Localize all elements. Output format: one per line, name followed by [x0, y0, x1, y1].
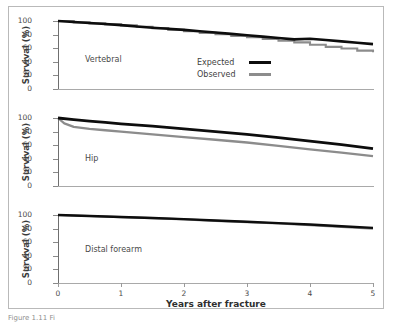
y-axis-tick-label: 0: [27, 85, 32, 93]
figure-caption: Figure 1.11 Fi: [8, 314, 384, 324]
y-axis-tick-label: 60: [22, 44, 32, 52]
expected-curve-vertebral: [58, 21, 373, 44]
y-axis-tick-label: 40: [22, 155, 32, 163]
panel-label-distal-forearm: Distal forearm: [85, 245, 142, 254]
legend-label-observed: Observed: [197, 70, 249, 79]
x-axis-tick-label: 3: [240, 289, 254, 298]
x-axis-tick: [373, 283, 374, 287]
x-axis-tick: [247, 283, 248, 287]
legend-entry-observed: Observed: [197, 69, 301, 80]
y-axis-tick-label: 40: [22, 252, 32, 260]
figure-frame: Survival (%) 020406080100 Vertebral Expe…: [8, 6, 384, 309]
x-axis-tick-label: 5: [366, 289, 380, 298]
thick-black-line-swatch-icon: [249, 61, 271, 64]
y-axis-tick: [53, 89, 58, 90]
x-axis-title: Years after fracture: [58, 299, 374, 309]
y-axis-tick-label: 40: [22, 58, 32, 66]
y-axis-tick-label: 80: [22, 128, 32, 136]
panel-label-hip: Hip: [85, 154, 98, 163]
x-axis-tick: [184, 283, 185, 287]
y-axis-tick-label: 20: [22, 168, 32, 176]
panel-distal-forearm: Survival (%) 020406080100 Distal forearm…: [9, 201, 385, 310]
x-axis-tick: [310, 283, 311, 287]
panel-vertebral: Survival (%) 020406080100 Vertebral Expe…: [9, 7, 385, 107]
legend: Expected Observed: [197, 57, 301, 83]
y-axis-tick-label: 100: [18, 17, 32, 25]
expected-curve-distal-forearm: [58, 215, 373, 228]
y-axis-tick-label: 0: [27, 279, 32, 287]
legend-entry-expected: Expected: [197, 57, 301, 68]
panel-hip: Survival (%) 020406080100 Hip: [9, 104, 385, 204]
expected-curve-hip: [58, 118, 373, 149]
legend-label-expected: Expected: [197, 58, 249, 67]
thin-gray-line-swatch-icon: [249, 73, 271, 75]
x-axis-tick: [121, 283, 122, 287]
x-axis-tick-label: 2: [177, 289, 191, 298]
y-axis-tick-label: 20: [22, 71, 32, 79]
y-axis-tick-label: 80: [22, 31, 32, 39]
x-axis-tick-label: 1: [114, 289, 128, 298]
x-axis-tick: [58, 283, 59, 287]
panel-label-vertebral: Vertebral: [85, 55, 122, 64]
x-axis-line: [58, 89, 374, 90]
x-axis-line: [58, 283, 374, 284]
observed-curve-vertebral: [58, 21, 373, 52]
y-axis-tick-label: 60: [22, 238, 32, 246]
y-axis-tick-label: 100: [18, 211, 32, 219]
y-axis-tick-label: 80: [22, 225, 32, 233]
plot-area-hip: [58, 118, 373, 186]
y-axis-tick-label: 100: [18, 114, 32, 122]
figure-container: Survival (%) 020406080100 Vertebral Expe…: [0, 0, 394, 324]
y-axis-tick-label: 60: [22, 141, 32, 149]
x-axis-tick-label: 4: [303, 289, 317, 298]
y-axis-tick: [53, 186, 58, 187]
x-axis-tick-label: 0: [51, 289, 65, 298]
y-axis-tick-label: 0: [27, 182, 32, 190]
curves-hip: [58, 118, 373, 186]
y-axis-tick-label: 20: [22, 265, 32, 273]
x-axis-line: [58, 186, 374, 187]
